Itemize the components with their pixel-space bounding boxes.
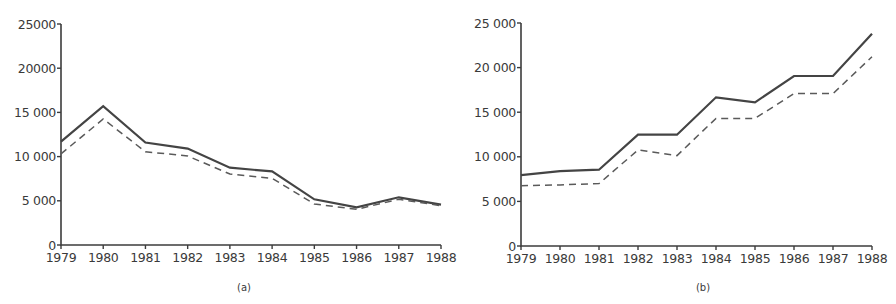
x-tick-label: 1987 <box>818 251 849 266</box>
x-tick-label: 1983 <box>662 251 693 266</box>
axes <box>61 24 441 245</box>
x-tick-label: 1983 <box>215 250 246 265</box>
x-tick-label: 1980 <box>88 250 119 265</box>
x-tick-label: 1987 <box>383 250 414 265</box>
y-tick-label: 15 000 <box>474 105 516 120</box>
series-solid-line <box>521 34 872 175</box>
x-tick-label: 1986 <box>341 250 372 265</box>
x-tick-label: 1979 <box>46 250 77 265</box>
x-tick-label: 1981 <box>584 251 615 266</box>
x-tick-label: 1988 <box>426 250 457 265</box>
y-tick-label: 25 000 <box>474 16 516 31</box>
y-tick-label: 25000 <box>18 17 57 32</box>
x-tick-label: 1988 <box>857 251 888 266</box>
y-tick-label: 20000 <box>18 61 57 76</box>
y-tick-label: 5 000 <box>22 193 57 208</box>
series-solid-line <box>61 106 441 207</box>
chart-b: 05 00010 00015 00020 00025 0001979198019… <box>474 16 888 294</box>
y-tick-label: 5 000 <box>482 194 517 209</box>
series-dashed-line <box>61 119 441 209</box>
figure: 05 00010 00015 0002000025000197919801981… <box>0 0 896 304</box>
x-tick-label: 1979 <box>506 251 537 266</box>
y-tick-label: 10 000 <box>14 149 56 164</box>
x-tick-label: 1982 <box>623 251 654 266</box>
y-tick-label: 20 000 <box>474 60 516 75</box>
y-tick-label: 10 000 <box>474 149 516 164</box>
chart-a: 05 00010 00015 0002000025000197919801981… <box>14 17 457 294</box>
x-tick-label: 1984 <box>257 250 288 265</box>
x-tick-label: 1980 <box>545 251 576 266</box>
x-tick-label: 1985 <box>299 250 330 265</box>
y-tick-label: 15 000 <box>14 105 56 120</box>
x-tick-label: 1982 <box>172 250 203 265</box>
x-tick-label: 1981 <box>130 250 161 265</box>
chart-caption: (b) <box>696 282 710 293</box>
chart-caption: (a) <box>237 282 251 293</box>
x-tick-label: 1984 <box>701 251 732 266</box>
x-tick-label: 1986 <box>779 251 810 266</box>
x-tick-label: 1985 <box>740 251 771 266</box>
axes <box>521 23 872 246</box>
